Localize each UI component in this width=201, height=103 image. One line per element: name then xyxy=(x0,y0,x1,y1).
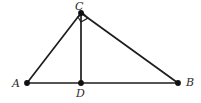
vertex-label-D: D xyxy=(76,88,85,99)
vertex-dot-D xyxy=(78,80,84,86)
vertex-dot-A xyxy=(24,80,30,86)
segment-group xyxy=(27,13,178,83)
segment-AC xyxy=(27,13,81,83)
vertex-dot-group xyxy=(24,10,181,86)
geometry-canvas xyxy=(0,0,201,103)
vertex-dot-B xyxy=(175,80,181,86)
segment-CB xyxy=(81,13,178,83)
vertex-label-A: A xyxy=(12,78,20,89)
vertex-label-C: C xyxy=(75,1,83,12)
geometry-figure: C A B D xyxy=(0,0,201,103)
vertex-label-B: B xyxy=(186,77,194,88)
